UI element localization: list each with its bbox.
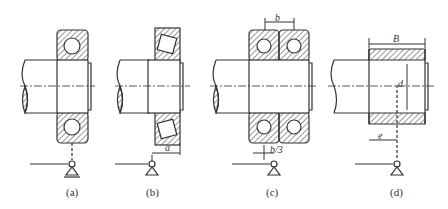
dimension-B: B — [393, 33, 399, 44]
bearing-support-diagram — [0, 0, 448, 209]
panel-d-label: (d) — [390, 186, 403, 198]
dimension-b-third: b/3 — [270, 144, 283, 155]
dimension-e: e — [378, 130, 382, 141]
dimension-b: b — [275, 12, 280, 23]
panel-c-label: (c) — [266, 186, 278, 198]
panel-a-drawing — [22, 30, 91, 177]
panel-b-label: (b) — [146, 186, 159, 198]
dimension-d: d — [398, 78, 403, 89]
panel-c-drawing — [213, 18, 312, 175]
panel-b-drawing — [115, 28, 183, 175]
panel-d-drawing — [331, 38, 428, 175]
panel-a-label: (a) — [66, 186, 78, 198]
dimension-a: a — [165, 142, 170, 153]
